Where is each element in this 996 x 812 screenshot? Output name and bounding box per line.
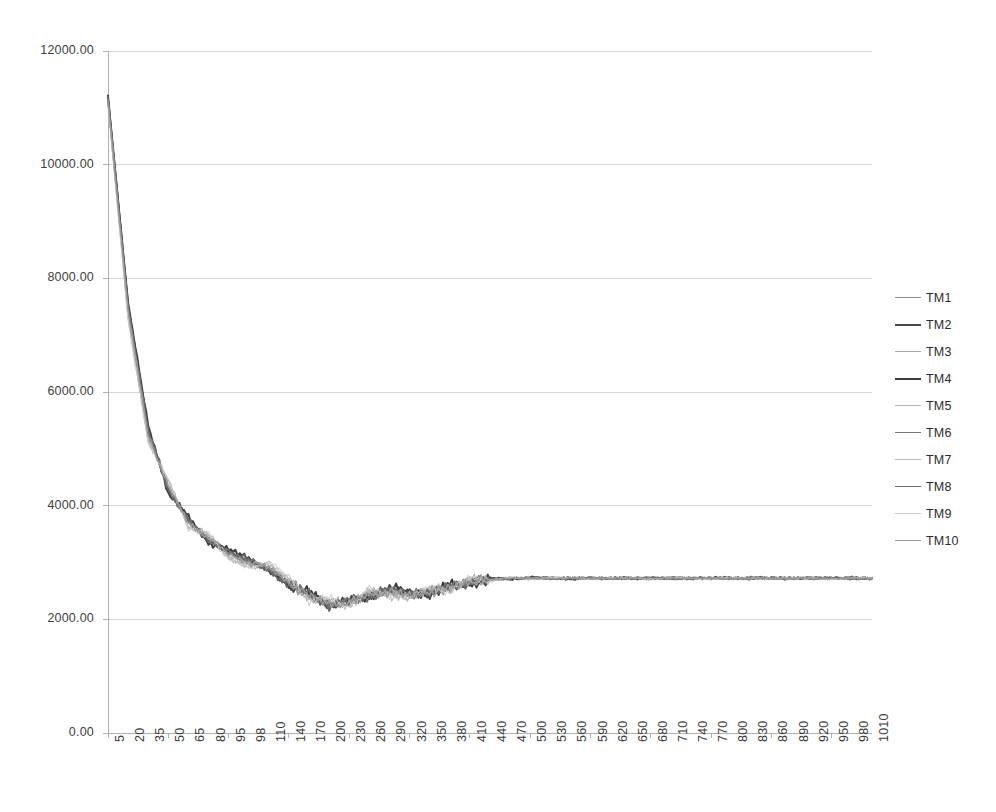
- legend-item-tm3[interactable]: TM3: [895, 338, 995, 365]
- x-tick-label: 650: [636, 721, 650, 742]
- x-tick-label: 560: [575, 721, 589, 742]
- x-tick-label: 770: [716, 721, 730, 742]
- legend-label: TM9: [926, 507, 952, 521]
- x-tick-label: 410: [475, 721, 489, 742]
- legend-swatch-icon: [895, 513, 921, 514]
- y-tick-label: 4000.00: [0, 498, 94, 512]
- x-tick-label: 290: [394, 721, 408, 742]
- legend-swatch-icon: [895, 297, 921, 299]
- x-tick-label: 65: [193, 728, 207, 742]
- series-line-tm1: [108, 99, 872, 607]
- legend-item-tm2[interactable]: TM2: [895, 311, 995, 338]
- x-tick-label: 800: [736, 721, 750, 742]
- chart-container: 12000.0010000.008000.006000.004000.00200…: [0, 0, 996, 812]
- legend-swatch-icon: [895, 351, 921, 352]
- legend-item-tm7[interactable]: TM7: [895, 446, 995, 473]
- chart-legend: TM1TM2TM3TM4TM5TM6TM7TM8TM9TM10: [895, 284, 995, 554]
- x-tick-label: 170: [314, 721, 328, 742]
- x-tick-label: 470: [515, 721, 529, 742]
- series-lines: [108, 96, 872, 611]
- legend-swatch-icon: [895, 459, 921, 460]
- x-tick-label: 50: [173, 728, 187, 742]
- legend-swatch-icon: [895, 405, 921, 406]
- x-tick-label: 1010: [877, 713, 891, 742]
- x-tick-label: 680: [656, 721, 670, 742]
- series-line-tm3: [108, 101, 872, 607]
- series-line-tm7: [108, 103, 872, 610]
- x-tick-label: 140: [294, 721, 308, 742]
- legend-label: TM10: [926, 534, 959, 548]
- x-tick-label: 320: [415, 721, 429, 742]
- legend-swatch-icon: [895, 324, 921, 326]
- x-tick-label: 110: [274, 721, 288, 742]
- legend-label: TM5: [926, 399, 952, 413]
- x-tick-label: 20: [133, 728, 147, 742]
- x-tick-label: 5: [113, 735, 127, 742]
- x-tick-label: 890: [797, 721, 811, 742]
- legend-item-tm10[interactable]: TM10: [895, 527, 995, 554]
- x-tick-label: 950: [837, 721, 851, 742]
- y-tick-label: 0.00: [0, 725, 94, 739]
- x-tick-label: 440: [495, 721, 509, 742]
- legend-item-tm5[interactable]: TM5: [895, 392, 995, 419]
- legend-swatch-icon: [895, 540, 921, 541]
- x-tick-label: 260: [374, 721, 388, 742]
- series-line-tm9: [108, 105, 872, 607]
- series-line-tm10: [108, 100, 872, 608]
- legend-item-tm9[interactable]: TM9: [895, 500, 995, 527]
- x-tick-label: 200: [334, 721, 348, 742]
- x-tick-label: 380: [455, 721, 469, 742]
- x-tick-label: 920: [817, 721, 831, 742]
- series-line-tm5: [108, 104, 872, 608]
- legend-swatch-icon: [895, 486, 921, 488]
- legend-label: TM4: [926, 372, 952, 386]
- x-tick-label: 980: [857, 721, 871, 742]
- legend-swatch-icon: [895, 378, 921, 380]
- chart-plot-area: [0, 0, 996, 812]
- legend-label: TM2: [926, 318, 952, 332]
- legend-label: TM6: [926, 426, 952, 440]
- y-tick-label: 8000.00: [0, 270, 94, 284]
- x-tick-label: 530: [555, 721, 569, 742]
- x-tick-label: 80: [214, 728, 228, 742]
- legend-label: TM8: [926, 480, 952, 494]
- legend-label: TM3: [926, 345, 952, 359]
- x-tick-label: 95: [234, 728, 248, 742]
- x-tick-label: 230: [354, 721, 368, 742]
- legend-item-tm1[interactable]: TM1: [895, 284, 995, 311]
- series-line-tm8: [108, 97, 872, 610]
- x-tick-label: 350: [435, 721, 449, 742]
- series-line-tm2: [108, 99, 872, 611]
- y-tick-label: 12000.00: [0, 43, 94, 57]
- legend-label: TM1: [926, 291, 952, 305]
- legend-item-tm4[interactable]: TM4: [895, 365, 995, 392]
- legend-label: TM7: [926, 453, 952, 467]
- x-tick-label: 590: [596, 721, 610, 742]
- x-tick-label: 830: [756, 721, 770, 742]
- series-line-tm6: [108, 99, 872, 608]
- series-line-tm4: [108, 96, 872, 608]
- x-tick-label: 98: [254, 728, 268, 742]
- y-tick-label: 6000.00: [0, 384, 94, 398]
- x-tick-label: 710: [676, 721, 690, 742]
- x-tick-label: 35: [153, 728, 167, 742]
- legend-swatch-icon: [895, 432, 921, 434]
- gridlines: [108, 51, 872, 733]
- x-tick-label: 500: [535, 721, 549, 742]
- y-tick-label: 10000.00: [0, 157, 94, 171]
- x-tick-label: 740: [696, 721, 710, 742]
- y-tick-label: 2000.00: [0, 611, 94, 625]
- legend-item-tm8[interactable]: TM8: [895, 473, 995, 500]
- x-tick-label: 860: [776, 721, 790, 742]
- legend-item-tm6[interactable]: TM6: [895, 419, 995, 446]
- x-tick-label: 620: [616, 721, 630, 742]
